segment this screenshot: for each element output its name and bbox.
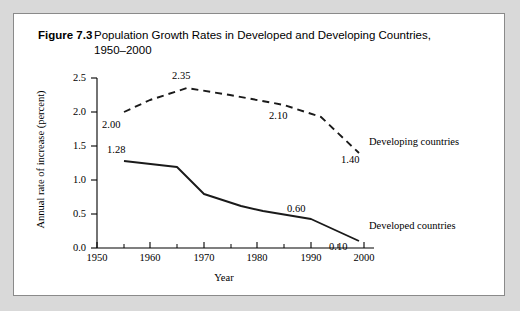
y-tick-3: 1.5 — [56, 140, 86, 151]
point-label-developed-1986: 0.60 — [287, 203, 305, 214]
point-label-developing-1985: 2.10 — [269, 110, 287, 121]
point-label-developed-1955: 1.28 — [107, 144, 125, 155]
x-tick-1970: 1970 — [184, 252, 224, 263]
x-axis-title: Year — [164, 272, 284, 283]
series-label-developed: Developed countries — [369, 220, 456, 231]
point-label-developing-1967: 2.35 — [172, 70, 190, 81]
y-tick-2: 1.0 — [56, 174, 86, 185]
y-tick-4: 2.0 — [56, 106, 86, 117]
point-label-developing-1955: 2.00 — [102, 119, 120, 130]
chart-plot-area: 0.0 0.5 1.0 1.5 2.0 2.5 1950 1960 1970 1… — [14, 14, 506, 297]
x-tick-1950: 1950 — [77, 252, 117, 263]
series-line-developing — [124, 88, 359, 153]
series-label-developing: Developing countries — [369, 136, 459, 147]
y-axis-title: Annual rate of increase (percent) — [35, 90, 46, 230]
x-tick-1990: 1990 — [291, 252, 331, 263]
x-tick-1960: 1960 — [130, 252, 170, 263]
y-tick-1: 0.5 — [56, 208, 86, 219]
y-tick-5: 2.5 — [56, 72, 86, 83]
point-label-developed-1999: 0.10 — [329, 241, 347, 252]
x-tick-1980: 1980 — [237, 252, 277, 263]
series-line-developed — [124, 161, 359, 241]
x-tick-2000: 2000 — [344, 252, 384, 263]
point-label-developing-1999: 1.40 — [341, 154, 359, 165]
figure-panel: Figure 7.3Population Growth Rates in Dev… — [13, 13, 505, 296]
